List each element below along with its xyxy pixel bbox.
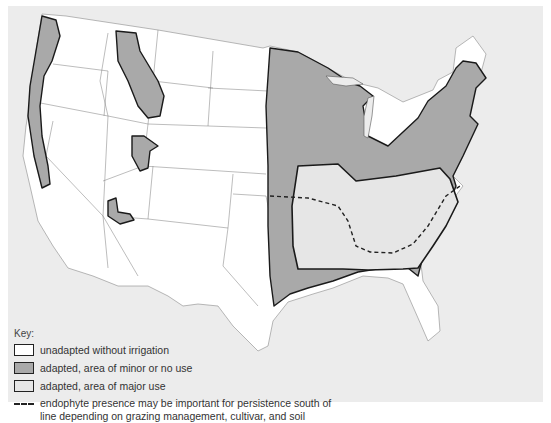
legend: Key: unadapted without irrigation adapte… — [14, 328, 331, 423]
legend-item-unadapted: unadapted without irrigation — [14, 341, 331, 359]
swatch-minor — [14, 362, 34, 374]
legend-label: unadapted without irrigation — [40, 344, 169, 356]
legend-item-endophyte: endophyte presence may be important for … — [14, 397, 331, 423]
swatch-major — [14, 380, 34, 392]
legend-item-major: adapted, area of major use — [14, 377, 331, 395]
swatch-unadapted — [14, 344, 34, 356]
legend-endophyte-text: endophyte presence may be important for … — [40, 397, 331, 423]
legend-label: adapted, area of major use — [40, 380, 166, 392]
region-major-use — [292, 164, 458, 270]
legend-title: Key: — [14, 328, 331, 339]
legend-item-minor: adapted, area of minor or no use — [14, 359, 331, 377]
legend-endophyte-line1: endophyte presence may be important for … — [40, 397, 331, 409]
dashed-line-icon — [14, 403, 34, 405]
legend-label: adapted, area of minor or no use — [40, 362, 192, 374]
legend-endophyte-line2: line depending on grazing management, cu… — [40, 410, 305, 422]
